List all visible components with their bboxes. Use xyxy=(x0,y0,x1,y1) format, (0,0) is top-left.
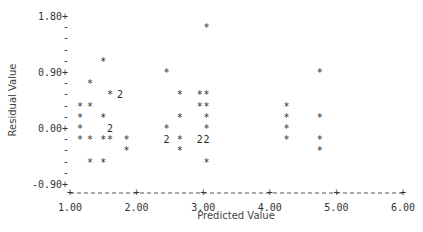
data-point-double: 2 xyxy=(107,123,113,134)
x-tick-label: 6.00 xyxy=(391,202,415,213)
x-major-tick: + xyxy=(200,187,206,198)
y-minor-tick: - xyxy=(63,77,69,88)
data-point: * xyxy=(164,123,170,134)
data-point: * xyxy=(107,89,113,100)
y-minor-tick: - xyxy=(63,32,69,43)
data-point: * xyxy=(317,134,323,145)
y-minor-tick: - xyxy=(63,55,69,66)
data-point: * xyxy=(77,101,83,112)
data-point: * xyxy=(283,134,289,145)
data-point: * xyxy=(283,123,289,134)
y-minor-tick: - xyxy=(63,144,69,155)
y-axis-label: Residual Value xyxy=(7,64,18,137)
y-tick-label: 1.80 xyxy=(38,11,62,22)
x-axis: +1.00+2.00+3.00+4.00+5.00+6.00 Predicted… xyxy=(58,187,415,221)
data-point: * xyxy=(77,123,83,134)
y-minor-tick: - xyxy=(63,100,69,111)
data-point: * xyxy=(204,89,210,100)
data-point: * xyxy=(204,112,210,123)
data-point: * xyxy=(283,101,289,112)
data-point-double: 2 xyxy=(164,134,170,145)
data-point: * xyxy=(204,123,210,134)
y-minor-tick: - xyxy=(63,156,69,167)
x-tick-label: 2.00 xyxy=(125,202,149,213)
data-point: * xyxy=(77,134,83,145)
y-minor-tick: - xyxy=(63,133,69,144)
x-major-tick: + xyxy=(333,187,339,198)
data-point: * xyxy=(100,112,106,123)
residual-scatter-plot: 1.80 0.90 0.00 -0.90 + + + + -----------… xyxy=(0,0,423,232)
data-point: * xyxy=(283,112,289,123)
y-minor-tick: - xyxy=(63,44,69,55)
y-tick-label: -0.90 xyxy=(32,179,62,190)
y-tick-label: 0.90 xyxy=(38,67,62,78)
data-point: * xyxy=(87,101,93,112)
data-point: * xyxy=(77,112,83,123)
data-point: * xyxy=(124,134,130,145)
x-axis-label: Predicted Value xyxy=(197,210,275,221)
y-axis: 1.80 0.90 0.00 -0.90 + + + + -----------… xyxy=(7,11,69,190)
data-point: * xyxy=(124,145,130,156)
data-point: * xyxy=(197,89,203,100)
x-major-tick: + xyxy=(67,187,73,198)
data-point: * xyxy=(204,157,210,168)
data-point: * xyxy=(164,67,170,78)
data-point: * xyxy=(100,56,106,67)
data-point: * xyxy=(317,145,323,156)
data-point: * xyxy=(317,67,323,78)
data-point: * xyxy=(87,134,93,145)
data-point: * xyxy=(204,22,210,33)
y-tick-label: 0.00 xyxy=(38,123,62,134)
data-point: * xyxy=(197,101,203,112)
data-point-double: 2 xyxy=(204,134,210,145)
data-point: * xyxy=(87,78,93,89)
y-minor-ticks: ------------ xyxy=(63,21,69,178)
data-point: * xyxy=(177,145,183,156)
data-point-double: 2 xyxy=(197,134,203,145)
x-major-tick: + xyxy=(134,187,140,198)
data-point: * xyxy=(177,134,183,145)
x-tick-label: 1.00 xyxy=(58,202,82,213)
x-major-tick: + xyxy=(267,187,273,198)
y-minor-tick: - xyxy=(63,167,69,178)
data-point: * xyxy=(107,134,113,145)
data-point: * xyxy=(100,157,106,168)
data-point: * xyxy=(100,134,106,145)
x-tick-label: 5.00 xyxy=(324,202,348,213)
y-minor-tick: - xyxy=(63,21,69,32)
data-point: * xyxy=(177,112,183,123)
data-point-double: 2 xyxy=(117,89,123,100)
data-point: * xyxy=(204,101,210,112)
data-point: * xyxy=(87,157,93,168)
data-points: *************2*2****2******2*****2******… xyxy=(77,22,323,167)
data-point: * xyxy=(317,112,323,123)
y-minor-tick: - xyxy=(63,111,69,122)
data-point: * xyxy=(177,89,183,100)
y-minor-tick: - xyxy=(63,88,69,99)
x-major-tick: + xyxy=(400,187,406,198)
